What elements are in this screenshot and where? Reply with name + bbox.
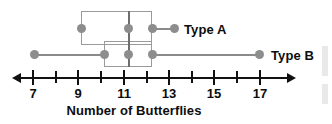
axis-tick-label-7: 7 — [20, 86, 46, 101]
axis-tick-9 — [77, 70, 79, 85]
type-a-max-marker — [170, 24, 179, 33]
type-b-min-marker — [30, 50, 39, 59]
axis-tick-label-11: 11 — [111, 86, 137, 101]
type-b-max-marker — [255, 50, 264, 59]
axis-tick-label-9: 9 — [65, 86, 91, 101]
scan-artifact — [322, 84, 328, 104]
type-a-q3-marker — [148, 24, 157, 33]
type-a-median-marker — [124, 24, 133, 33]
type-a-label: Type A — [184, 22, 227, 37]
boxplot-figure: Type A Type B — [0, 0, 332, 124]
type-b-upper-whisker — [152, 54, 260, 56]
scan-artifact — [322, 46, 328, 76]
axis-tick-12 — [146, 71, 148, 83]
type-b-q3-marker — [148, 50, 157, 59]
axis-arrow-right-icon — [287, 73, 296, 83]
axis-tick-14 — [191, 71, 193, 83]
axis-tick-label-13: 13 — [156, 86, 182, 101]
type-a-box — [81, 11, 152, 45]
axis-tick-16 — [236, 71, 238, 83]
axis-tick-17 — [259, 70, 261, 85]
type-b-q1-marker — [100, 50, 109, 59]
axis-arrow-left-icon — [12, 73, 21, 83]
axis-tick-11 — [123, 70, 125, 85]
axis-tick-15 — [213, 70, 215, 85]
axis-tick-10 — [100, 71, 102, 83]
axis-tick-8 — [55, 71, 57, 83]
axis-tick-label-17: 17 — [247, 86, 273, 101]
x-axis-title: Number of Butterflies — [0, 103, 300, 118]
type-a-min-marker — [77, 24, 86, 33]
axis-tick-7 — [32, 70, 34, 85]
axis-tick-label-15: 15 — [201, 86, 227, 101]
type-b-lower-whisker — [36, 54, 105, 56]
type-b-median-marker — [124, 50, 133, 59]
axis-tick-13 — [168, 70, 170, 85]
axis-baseline — [20, 77, 288, 79]
type-b-label: Type B — [271, 48, 314, 63]
